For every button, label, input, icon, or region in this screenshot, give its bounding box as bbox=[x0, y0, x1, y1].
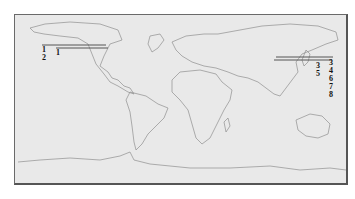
antarctica-outline bbox=[18, 152, 346, 170]
marker-label: 1 bbox=[56, 49, 60, 57]
marker-label: 2 bbox=[42, 54, 46, 62]
marker-label: 8 bbox=[329, 91, 333, 99]
world-map-outline bbox=[0, 0, 355, 199]
marker-label: 5 bbox=[316, 70, 320, 78]
africa-outline bbox=[172, 70, 232, 144]
marker-lines bbox=[42, 45, 333, 60]
madagascar-outline bbox=[224, 118, 230, 132]
south-america-outline bbox=[126, 92, 168, 150]
greenland-outline bbox=[148, 34, 164, 52]
australia-outline bbox=[296, 114, 330, 138]
